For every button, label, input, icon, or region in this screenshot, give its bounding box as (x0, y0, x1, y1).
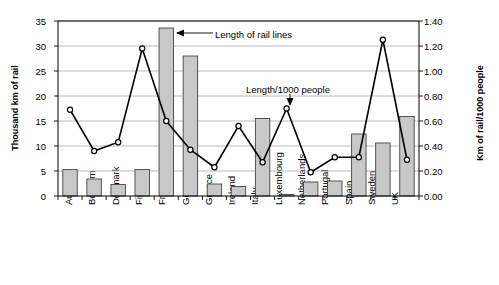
x-axis-label-austria: Austria (63, 175, 74, 205)
y-axis-right-title: Km of rail/1000 people (475, 48, 485, 178)
x-axis-label-spain: Spain (343, 181, 354, 205)
line-point-italy (260, 160, 265, 165)
x-axis-label-netherlands: Netherlands (296, 154, 307, 205)
line-point-finland (140, 46, 145, 51)
line-marker-group (67, 37, 409, 175)
x-axis-label-france: France (156, 175, 167, 205)
x-axis-label-portugal: Portugal (319, 170, 330, 205)
line-point-greece (212, 165, 217, 170)
y-right-tick-140: 1.40 (424, 16, 452, 27)
line-annotation-arrowhead (287, 98, 294, 106)
y-left-tick-0: 0 (22, 191, 46, 202)
rail-statistics-chart: Thousand km of rail Km of rail/1000 peop… (0, 0, 499, 285)
y-right-tick-120: 1.20 (424, 41, 452, 52)
y-axis-left-title: Thousand km of rail (10, 48, 20, 168)
line-series-group (70, 40, 407, 173)
line-point-belgium (92, 148, 97, 153)
x-axis-label-belgium: Belgium (86, 171, 97, 205)
y-left-tick-15: 15 (22, 116, 46, 127)
bar-series-annotation-label: Length of rail lines (215, 29, 292, 40)
bar-italy (255, 119, 269, 197)
line-series-annotation-label: Length/1000 people (246, 84, 330, 95)
line-point-france (164, 118, 169, 123)
x-axis-label-ireland: Ireland (226, 176, 237, 205)
y-left-tick-35: 35 (22, 16, 46, 27)
y-left-tick-10: 10 (22, 141, 46, 152)
gridlines (58, 21, 419, 171)
y-left-tick-30: 30 (22, 41, 46, 52)
y-right-tick-000: 0.00 (424, 191, 452, 202)
x-axis-label-italy: Italy (249, 188, 260, 205)
x-axis-label-germany: Germany (180, 166, 191, 205)
y-right-tick-100: 1.00 (424, 66, 452, 77)
line-point-luxembourg (284, 106, 289, 111)
line-point-austria (67, 107, 72, 112)
y-right-tick-080: 0.80 (424, 91, 452, 102)
x-axis-label-finland: Finland (133, 174, 144, 205)
x-axis-label-uk: UK (389, 192, 400, 205)
line-point-portugal (332, 155, 337, 160)
bar-uk (400, 117, 414, 197)
line-point-ireland (236, 123, 241, 128)
x-axis-label-luxembourg: Luxembourg (273, 152, 284, 205)
line-point-spain (356, 155, 361, 160)
line-point-sweden (380, 37, 385, 42)
x-axis-label-greece: Greece (203, 174, 214, 205)
y-left-tick-25: 25 (22, 66, 46, 77)
bar-annotation-arrowhead (176, 30, 184, 37)
bar-sweden (376, 143, 390, 196)
line-point-germany (188, 147, 193, 152)
y-right-tick-060: 0.60 (424, 116, 452, 127)
x-axis-label-denmark: Denmark (110, 166, 121, 205)
bar-france (159, 28, 173, 196)
line-point-netherlands (308, 170, 313, 175)
y-right-tick-040: 0.40 (424, 141, 452, 152)
line-point-denmark (116, 140, 121, 145)
line-point-uk (404, 157, 409, 162)
x-axis-label-sweden: Sweden (366, 171, 377, 205)
y-left-tick-20: 20 (22, 91, 46, 102)
y-right-tick-020: 0.20 (424, 166, 452, 177)
y-left-tick-5: 5 (22, 166, 46, 177)
